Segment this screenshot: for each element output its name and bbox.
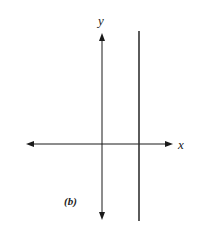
y-axis-up-arrow-icon [99, 33, 105, 41]
x-axis [26, 141, 173, 147]
coordinate-diagram: y x (b) [0, 0, 197, 225]
y-axis-down-arrow-icon [99, 212, 105, 220]
y-axis-label: y [98, 14, 104, 27]
x-axis-right-arrow-icon [165, 141, 173, 147]
axes-svg [0, 0, 197, 225]
panel-label: (b) [64, 196, 77, 207]
y-axis [99, 33, 105, 220]
x-axis-left-arrow-icon [26, 141, 34, 147]
x-axis-label: x [178, 138, 184, 151]
